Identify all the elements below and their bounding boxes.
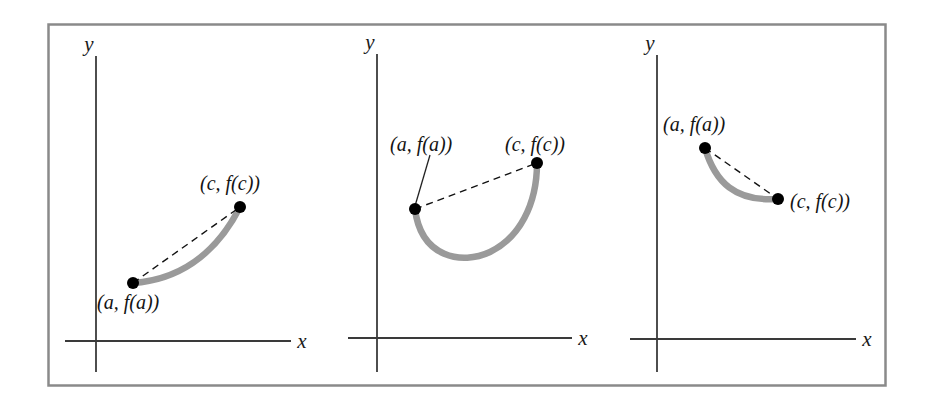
panel-1-x-axis-label: x: [296, 329, 307, 353]
panel-1-point-c: [234, 201, 246, 213]
panel-1-label-c: (c, f(c)): [200, 172, 260, 195]
panel-3-point-a: [699, 142, 711, 154]
panel-2-label-c: (c, f(c)): [505, 133, 565, 156]
panel-1-label-a: (a, f(a)): [97, 291, 160, 314]
figure-border: [49, 25, 886, 386]
panel-1-point-a: [127, 277, 139, 289]
figure-canvas: y x (a, f(a)) (c, f(c)) y x (a, f(: [0, 0, 930, 402]
panel-3-x-axis-label: x: [861, 327, 872, 351]
panel-2-point-c: [531, 157, 543, 169]
panel-3-label-a: (a, f(a)): [663, 113, 726, 136]
panel-1-y-axis-label: y: [82, 32, 94, 56]
panel-3-y-axis-label: y: [643, 31, 655, 55]
panel-2-x-axis-label: x: [577, 326, 588, 350]
figure-container: y x (a, f(a)) (c, f(c)) y x (a, f(: [0, 0, 930, 402]
panel-2-y-axis-label: y: [363, 30, 375, 54]
panel-2-label-a: (a, f(a)): [390, 133, 453, 156]
panel-2-point-a: [409, 203, 421, 215]
panel-3-point-c: [772, 193, 784, 205]
panel-3-label-c: (c, f(c)): [790, 190, 850, 213]
